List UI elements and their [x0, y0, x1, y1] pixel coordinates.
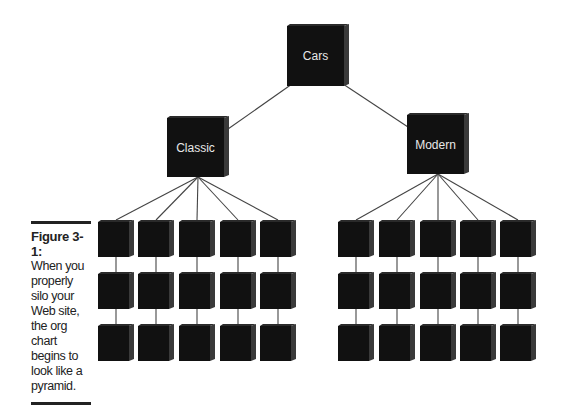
connector-line — [197, 177, 198, 220]
node-leaf — [338, 220, 374, 257]
node-leaf — [338, 272, 374, 309]
node-branch-modern: Modern — [407, 113, 469, 174]
connector-line — [116, 177, 198, 220]
node-leaf — [420, 272, 456, 309]
node-leaf — [500, 272, 536, 309]
connector-line — [438, 174, 518, 220]
node-leaf — [98, 324, 134, 361]
node-leaf — [379, 220, 415, 257]
node-leaf — [500, 324, 536, 361]
node-label: Classic — [176, 141, 215, 155]
node-leaf — [379, 272, 415, 309]
figure-caption: Figure 3-1: When you properly silo your … — [31, 221, 91, 405]
node-branch-classic: Classic — [167, 116, 229, 177]
node-leaf — [420, 220, 456, 257]
node-leaf — [179, 272, 215, 309]
connector-line — [397, 174, 438, 220]
node-leaf — [379, 324, 415, 361]
node-leaf — [460, 272, 496, 309]
node-leaf — [138, 220, 174, 257]
node-leaf — [220, 272, 256, 309]
figure-label: Figure 3-1: — [31, 229, 91, 259]
node-leaf — [98, 220, 134, 257]
node-leaf — [179, 324, 215, 361]
node-leaf — [98, 272, 134, 309]
node-leaf — [138, 324, 174, 361]
connector-line — [438, 174, 478, 220]
caption-top-rule — [31, 221, 91, 224]
node-root: Cars — [287, 24, 349, 86]
caption-text: When you properly silo your Web site, th… — [31, 259, 91, 394]
connector-line — [228, 84, 292, 129]
connector-line — [343, 84, 408, 127]
node-leaf — [220, 220, 256, 257]
node-leaf — [220, 324, 256, 361]
connector-line — [356, 174, 438, 220]
node-leaf — [260, 220, 296, 257]
connector-line — [198, 177, 238, 220]
node-leaf — [500, 220, 536, 257]
node-leaf — [179, 220, 215, 257]
node-leaf — [260, 272, 296, 309]
node-leaf — [338, 324, 374, 361]
node-leaf — [460, 324, 496, 361]
node-leaf — [138, 272, 174, 309]
node-label: Cars — [303, 49, 328, 63]
connector-line — [156, 177, 198, 220]
node-label: Modern — [415, 138, 456, 152]
node-leaf — [460, 220, 496, 257]
connector-line — [198, 177, 278, 220]
node-leaf — [260, 324, 296, 361]
node-leaf — [420, 324, 456, 361]
